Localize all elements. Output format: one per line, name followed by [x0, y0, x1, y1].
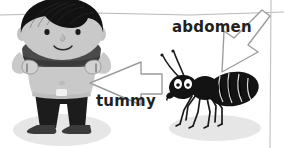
boy-navel — [59, 81, 65, 85]
cartoon-boy — [12, 0, 111, 134]
label-abdomen: abdomen — [172, 18, 252, 36]
ant-right-pupil — [186, 83, 190, 87]
boy-left-eye — [44, 29, 49, 35]
ant-left-pupil — [176, 83, 180, 87]
label-tummy: tummy — [96, 92, 156, 110]
ant-antenna-tip-right — [171, 49, 174, 52]
boy-left-hand — [22, 60, 38, 74]
illustration-page: tummy abdomen — [0, 0, 284, 148]
right-rule-line — [270, 0, 271, 148]
ant-antennae — [163, 52, 184, 78]
boy-right-hand — [85, 60, 101, 74]
boy-right-eye — [75, 29, 80, 35]
ant-antenna-tip-left — [160, 53, 163, 56]
boy-belt-buckle — [56, 89, 67, 96]
boy-ground-shadow — [13, 114, 111, 146]
